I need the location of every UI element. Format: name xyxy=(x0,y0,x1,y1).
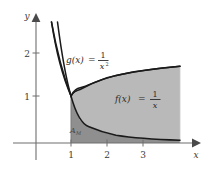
area-label-letter: A xyxy=(69,126,76,135)
f-denominator: x xyxy=(153,101,158,110)
f-numerator: 1 xyxy=(152,90,157,99)
f-label-equals: = xyxy=(138,94,146,104)
g-denominator: x xyxy=(100,62,105,71)
f-label-name: f(x) xyxy=(114,94,131,104)
x-tick-label-3: 3 xyxy=(140,150,146,160)
x-tick-label-2: 2 xyxy=(104,150,110,160)
area-label-subscript: M xyxy=(75,130,82,136)
y-tick-label-1: 1 xyxy=(24,92,30,102)
figure-container: 1 2 3 1 2 x y g(x) = 1 x 2 f(x) = 1 x xyxy=(0,0,209,172)
y-axis-label: y xyxy=(23,11,30,21)
x-axis-label: x xyxy=(193,150,198,160)
g-label-name: g(x) xyxy=(66,55,84,65)
g-exponent: 2 xyxy=(105,61,108,67)
g-function-annotation: g(x) = 1 x 2 xyxy=(66,51,109,71)
g-label-equals: = xyxy=(88,55,96,65)
y-axis-arrowhead xyxy=(32,13,41,22)
plot-area: 1 2 3 1 2 x y g(x) = 1 x 2 f(x) = 1 x xyxy=(0,0,209,172)
x-axis-arrowhead xyxy=(192,139,201,148)
y-tick-label-2: 2 xyxy=(24,49,30,59)
x-tick-label-1: 1 xyxy=(68,150,74,160)
g-numerator: 1 xyxy=(100,51,105,60)
